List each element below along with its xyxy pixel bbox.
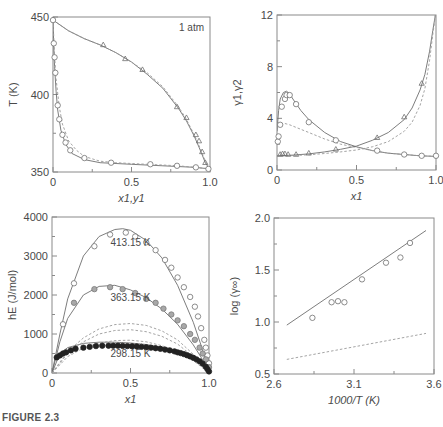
circle-marker bbox=[192, 337, 197, 342]
y-tick-label: 1000 bbox=[24, 328, 48, 340]
circle-marker bbox=[193, 165, 198, 170]
circle-marker bbox=[71, 300, 76, 305]
y-axis-label: γ1,γ2 bbox=[231, 79, 243, 105]
circle-marker bbox=[202, 337, 207, 342]
x-tick-label: 0 bbox=[49, 377, 55, 389]
figure-caption: FIGURE 2.3 bbox=[2, 412, 59, 423]
circle-marker bbox=[82, 155, 87, 160]
y-tick-label: 4 bbox=[267, 112, 273, 124]
circle-marker bbox=[203, 345, 208, 350]
circle-marker bbox=[93, 343, 98, 348]
y-axis-label: T (K) bbox=[7, 82, 19, 106]
circle-marker bbox=[107, 285, 112, 290]
circle-marker bbox=[92, 286, 97, 291]
circle-marker bbox=[333, 138, 338, 143]
circle-marker bbox=[148, 162, 153, 167]
circle-marker bbox=[153, 300, 158, 305]
circle-marker bbox=[398, 255, 403, 260]
circle-marker bbox=[335, 299, 340, 304]
circle-marker bbox=[175, 318, 180, 323]
circle-marker bbox=[329, 300, 334, 305]
circle-marker bbox=[60, 322, 65, 327]
pressure-annotation: 1 atm bbox=[179, 22, 204, 33]
circle-marker bbox=[197, 345, 202, 350]
y-tick-label: 2000 bbox=[24, 289, 48, 301]
y-tick-label: 1.5 bbox=[255, 264, 270, 276]
y-tick-label: 0.5 bbox=[255, 368, 270, 380]
curve-solid bbox=[277, 91, 436, 156]
y-tick-label: 450 bbox=[31, 11, 49, 23]
temperature-annotation: 413.15 K bbox=[110, 237, 150, 248]
curve-solid bbox=[287, 231, 426, 326]
circle-marker bbox=[63, 140, 68, 145]
x-axis-label: x1 bbox=[124, 393, 137, 405]
circle-marker bbox=[73, 346, 78, 351]
x-tick-label: 0.5 bbox=[124, 176, 139, 188]
triangle-marker bbox=[196, 138, 201, 143]
y-tick-label: 2.0 bbox=[255, 212, 270, 224]
circle-marker bbox=[287, 92, 292, 97]
curve-dashed bbox=[53, 20, 210, 169]
curve-dashed bbox=[277, 124, 436, 157]
circle-marker bbox=[206, 369, 211, 374]
circle-marker bbox=[310, 315, 315, 320]
temperature-annotation: 363.15 K bbox=[110, 292, 150, 303]
circle-marker bbox=[123, 230, 128, 235]
circle-marker bbox=[87, 344, 92, 349]
circle-marker bbox=[433, 153, 438, 158]
curve-dashed bbox=[53, 20, 210, 169]
x-tick-label: 0 bbox=[50, 176, 56, 188]
y-tick-label: 0 bbox=[267, 164, 273, 176]
circle-marker bbox=[359, 277, 364, 282]
y-tick-label: 12 bbox=[261, 9, 273, 21]
circle-marker bbox=[81, 345, 86, 350]
x-tick-label: 1.0 bbox=[428, 174, 443, 186]
curve-dashed bbox=[287, 333, 426, 359]
circle-marker bbox=[407, 240, 412, 245]
x-tick-label: 3.1 bbox=[346, 378, 361, 390]
temperature-annotation: 298.15 K bbox=[110, 348, 150, 359]
x-tick-label: 0 bbox=[274, 174, 280, 186]
circle-marker bbox=[279, 104, 284, 109]
x-axis-label: x1,y1 bbox=[117, 192, 144, 204]
circle-marker bbox=[71, 281, 76, 286]
x-axis-label: 1000/T (K) bbox=[328, 394, 380, 406]
circle-marker bbox=[169, 312, 174, 317]
circle-marker bbox=[402, 152, 407, 157]
circle-marker bbox=[181, 285, 186, 290]
circle-marker bbox=[342, 300, 347, 305]
circle-marker bbox=[195, 314, 200, 319]
y-tick-label: 4000 bbox=[24, 211, 48, 223]
circle-marker bbox=[161, 306, 166, 311]
curve-solid bbox=[277, 11, 436, 156]
curve-solid bbox=[53, 20, 210, 169]
circle-marker bbox=[57, 117, 62, 122]
circle-marker bbox=[275, 139, 280, 144]
circle-marker bbox=[419, 153, 424, 158]
circle-marker bbox=[192, 304, 197, 309]
y-tick-label: 1.0 bbox=[255, 316, 270, 328]
x-tick-label: 1.0 bbox=[202, 176, 217, 188]
circle-marker bbox=[108, 160, 113, 165]
circle-marker bbox=[53, 70, 58, 75]
x-tick-label: 0.5 bbox=[349, 174, 364, 186]
circle-marker bbox=[383, 260, 388, 265]
x-tick-label: 0.5 bbox=[123, 377, 138, 389]
circle-marker bbox=[162, 257, 167, 262]
y-tick-label: 350 bbox=[31, 166, 49, 178]
plot-frame bbox=[53, 17, 210, 172]
y-axis-label: hE (J/mol) bbox=[6, 270, 18, 320]
circle-marker bbox=[198, 325, 203, 330]
circle-marker bbox=[60, 132, 65, 137]
circle-marker bbox=[306, 120, 311, 125]
circle-marker bbox=[187, 331, 192, 336]
circle-marker bbox=[50, 17, 55, 22]
circle-marker bbox=[100, 343, 105, 348]
figure-canvas: 00.51.0350400450x1,y1T (K)1 atm00.51.004… bbox=[0, 0, 443, 427]
chart-panel-panel-a: 00.51.0350400450x1,y1T (K)1 atm bbox=[7, 11, 218, 204]
circle-marker bbox=[169, 265, 174, 270]
circle-marker bbox=[51, 41, 56, 46]
circle-marker bbox=[153, 247, 158, 252]
circle-marker bbox=[68, 148, 73, 153]
circle-marker bbox=[174, 163, 179, 168]
